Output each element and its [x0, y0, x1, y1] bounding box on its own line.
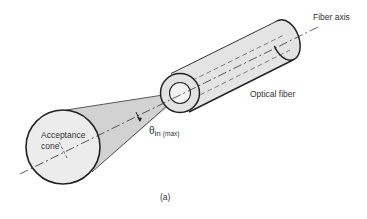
- theta-qualifier: (max): [163, 130, 180, 138]
- fiber-axis-label: Fiber axis: [313, 12, 350, 22]
- optical-fiber-label: Optical fiber: [250, 89, 296, 99]
- fiber-core-face: [170, 83, 191, 104]
- figure-caption: (a): [160, 192, 171, 202]
- theta-label: θin(max): [149, 125, 179, 138]
- theta-subscript: in: [155, 129, 161, 138]
- acceptance-cone-diagram: Fiber axis Optical fiber θin(max) Accept…: [0, 0, 367, 219]
- acceptance-cone-label-line1: Acceptance: [41, 130, 86, 140]
- acceptance-cone-label-line2: cone: [41, 141, 60, 151]
- acceptance-cone-circle: [26, 110, 100, 184]
